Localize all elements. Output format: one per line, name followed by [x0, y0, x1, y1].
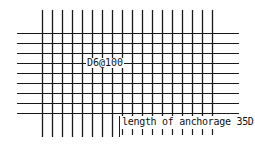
rebar-spec-label: D6@100 [86, 58, 124, 68]
anchorage-tick-marks [123, 129, 213, 135]
anchorage-length-label: length of anchorage 35D [121, 117, 255, 127]
horizontal-bars [17, 34, 239, 114]
rebar-mesh-drawing [0, 0, 255, 151]
